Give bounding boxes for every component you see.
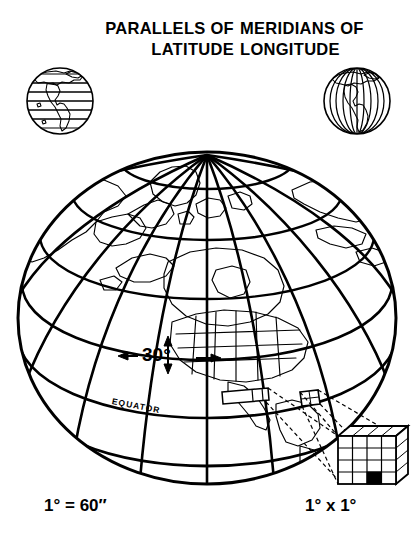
- footnote-one-by-one-degree: 1° x 1°: [305, 496, 356, 516]
- title-parallels-of-latitude: PARALLELS OF LATITUDE: [52, 18, 234, 60]
- callout-degree-block: [338, 426, 408, 484]
- footnote-degree-equals-minutes: 1° = 60″: [44, 496, 107, 516]
- figure-root: PARALLELS OF LATITUDE MERIDIANS OF LONGI…: [0, 0, 420, 539]
- title-meridians-of-longitude: MERIDIANS OF LONGITUDE: [240, 18, 412, 60]
- spacing-label-30-degrees: 30°: [142, 344, 171, 366]
- highlighted-degree-cell: [367, 472, 382, 484]
- inset-parallels-globe: [25, 68, 95, 134]
- inset-meridians-globe: [324, 68, 390, 134]
- globe-illustration: [0, 0, 420, 539]
